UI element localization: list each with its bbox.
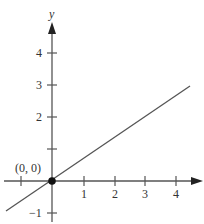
x-tick-label-3: 3 [142, 187, 148, 201]
chart: y 4 3 2 −1 1 2 3 4 (0, 0) [0, 0, 204, 224]
y-tick-label-minus1: −1 [29, 206, 42, 220]
y-tick-label-2: 2 [36, 110, 42, 124]
y-tick-label-3: 3 [36, 78, 42, 92]
y-axis-label: y [48, 7, 55, 21]
y-axis-arrow-icon [48, 22, 56, 34]
y-tick-label-4: 4 [36, 46, 42, 60]
x-tick-label-1: 1 [81, 187, 87, 201]
origin-point [48, 177, 56, 185]
x-tick-label-2: 2 [112, 187, 118, 201]
x-axis-arrow-icon [191, 177, 203, 185]
origin-label: (0, 0) [15, 161, 41, 175]
x-tick-label-4: 4 [173, 187, 179, 201]
data-line [6, 86, 190, 211]
